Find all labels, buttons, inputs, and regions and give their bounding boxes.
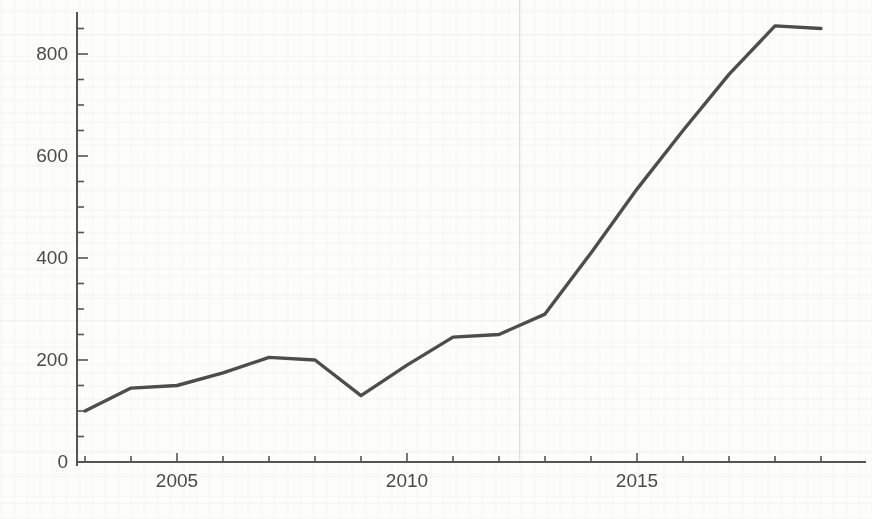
y-axis-tick-label: 0 [0, 451, 68, 473]
y-axis-tick-label: 400 [0, 247, 68, 269]
y-axis-tick-label: 600 [0, 145, 68, 167]
data-series-line [85, 26, 821, 411]
y-axis-tick-label: 200 [0, 349, 68, 371]
x-axis-tick-label: 2015 [616, 470, 658, 492]
y-axis-major-ticks [77, 54, 88, 462]
y-axis-tick-label: 800 [0, 43, 68, 65]
x-axis-major-ticks [177, 453, 637, 462]
x-axis-tick-label: 2010 [386, 470, 428, 492]
line-chart-plot [0, 0, 872, 519]
y-axis-minor-ticks [77, 29, 84, 437]
chart-figure: 0200400600800 200520102015 [0, 0, 872, 519]
x-axis-tick-label: 2005 [156, 470, 198, 492]
